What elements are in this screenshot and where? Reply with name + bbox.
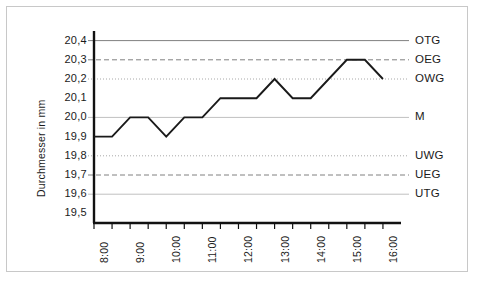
y-tick-label: 19,5 — [47, 206, 87, 218]
reference-label-uwg: UWG — [415, 149, 444, 161]
chart-frame: Durchmesser in mm 20,420,320,220,120,019… — [6, 6, 468, 272]
x-tick-label: 13:00 — [279, 236, 291, 263]
y-tick-label: 20,0 — [47, 110, 87, 122]
x-tick-label: 14:00 — [315, 236, 327, 263]
reference-label-utg: UTG — [415, 187, 440, 199]
y-tick-label: 20,4 — [47, 34, 87, 46]
x-tick-label: 12:00 — [242, 236, 254, 263]
data-series-line — [94, 60, 383, 137]
y-tick-label: 19,6 — [47, 187, 87, 199]
data-series-group — [94, 60, 383, 137]
y-tick-label: 19,7 — [47, 168, 87, 180]
x-tick-label: 10:00 — [170, 236, 182, 263]
y-tick-label: 19,9 — [47, 130, 87, 142]
x-tick-label: 16:00 — [387, 236, 399, 263]
reference-label-ueg: UEG — [415, 168, 441, 180]
y-tick-label: 19,8 — [47, 149, 87, 161]
y-tick-label: 20,2 — [47, 72, 87, 84]
x-tick-label: 8:00 — [98, 242, 110, 263]
reference-label-oeg: OEG — [415, 53, 441, 65]
y-tick-label: 20,3 — [47, 53, 87, 65]
x-tick-label: 15:00 — [351, 236, 363, 263]
x-tick-label: 11:00 — [206, 237, 218, 264]
y-tick-label: 20,1 — [47, 91, 87, 103]
reference-label-otg: OTG — [415, 34, 441, 46]
reference-label-m: M — [415, 110, 425, 122]
reference-label-owg: OWG — [415, 72, 444, 84]
x-tick-label: 9:00 — [134, 242, 146, 263]
